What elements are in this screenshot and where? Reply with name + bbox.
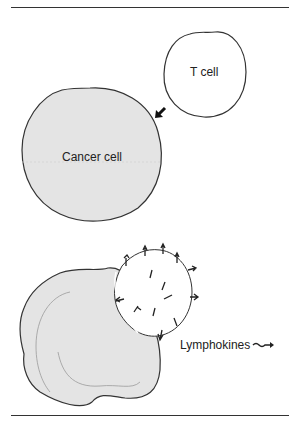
lymphokines-label: Lymphokines (180, 338, 250, 352)
t-cell-label: T cell (190, 65, 218, 79)
diagram-canvas (0, 0, 292, 425)
squiggle-arrow-icon (253, 342, 274, 348)
figure-caption (11, 418, 289, 425)
cancer-cell-label: Cancer cell (62, 150, 122, 164)
bottom-rule (11, 415, 289, 416)
arrow-icon (155, 108, 165, 118)
